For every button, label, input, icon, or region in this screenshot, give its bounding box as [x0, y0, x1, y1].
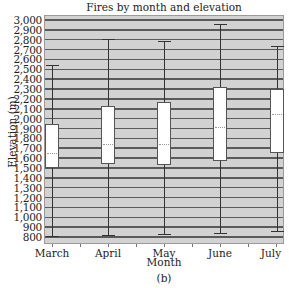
y-tick-label: 800 [0, 232, 42, 242]
median-line [47, 153, 57, 154]
x-tick-mark [136, 244, 137, 247]
box-june [213, 87, 227, 161]
min-cap-may [158, 234, 171, 235]
min-cap-march [46, 236, 59, 237]
x-axis-label: Month [147, 256, 182, 268]
gridline [45, 19, 283, 21]
figure-caption: (b) [157, 272, 172, 284]
max-cap-july [271, 46, 284, 47]
x-tick-mark [80, 244, 81, 247]
x-tick-label: April [95, 247, 121, 259]
x-tick-label: March [35, 247, 70, 259]
max-cap-march [46, 65, 59, 66]
median-line [103, 144, 113, 145]
x-tick-label: July [261, 247, 281, 259]
x-tick-mark [248, 244, 249, 247]
x-tick-mark [52, 244, 53, 247]
box-april [101, 106, 115, 164]
x-tick-mark [164, 244, 165, 247]
plot-area [44, 15, 284, 244]
min-cap-july [271, 231, 284, 232]
max-cap-april [102, 39, 115, 40]
max-cap-june [214, 24, 227, 25]
x-tick-mark [192, 244, 193, 247]
x-tick-mark [276, 244, 277, 247]
chart-title: Fires by month and elevation [44, 1, 284, 13]
x-tick-mark [108, 244, 109, 247]
x-tick-mark [220, 244, 221, 247]
gridline [45, 236, 283, 238]
median-line [215, 127, 225, 128]
box-march [45, 124, 59, 168]
x-tick-label: June [208, 247, 232, 259]
max-cap-may [158, 41, 171, 42]
median-line [272, 114, 282, 115]
box-may [157, 102, 171, 165]
gridline [45, 29, 283, 31]
median-line [159, 144, 169, 145]
min-cap-june [214, 233, 227, 234]
box-july [270, 89, 284, 153]
min-cap-april [102, 235, 115, 236]
